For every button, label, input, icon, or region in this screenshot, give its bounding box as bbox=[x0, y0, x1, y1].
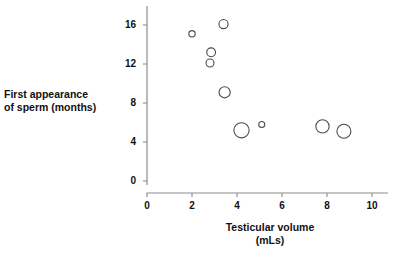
y-tick-label: 12 bbox=[114, 59, 136, 69]
y-tick-label: 0 bbox=[114, 176, 136, 186]
data-point bbox=[259, 121, 265, 127]
x-tick-label: 4 bbox=[226, 201, 248, 211]
data-point bbox=[207, 48, 216, 57]
scatter-plot-figure: First appearance of sperm (months) Testi… bbox=[0, 0, 396, 256]
x-tick-label: 10 bbox=[361, 201, 383, 211]
x-axis-spine bbox=[147, 193, 388, 197]
x-tick-label: 0 bbox=[136, 201, 158, 211]
plot-area bbox=[0, 0, 396, 256]
x-tick-label: 6 bbox=[271, 201, 293, 211]
y-tick-label: 16 bbox=[114, 20, 136, 30]
axis-group bbox=[147, 6, 388, 197]
data-point-group bbox=[189, 19, 351, 138]
x-tick-label: 2 bbox=[181, 201, 203, 211]
tick-mark-group bbox=[143, 25, 372, 197]
data-point bbox=[206, 59, 214, 67]
data-point bbox=[337, 124, 351, 138]
data-point bbox=[219, 87, 230, 98]
y-tick-label: 8 bbox=[114, 98, 136, 108]
y-tick-label: 4 bbox=[114, 137, 136, 147]
x-tick-label: 8 bbox=[316, 201, 338, 211]
data-point bbox=[189, 31, 195, 37]
data-point bbox=[316, 120, 329, 133]
data-point bbox=[234, 123, 249, 138]
data-point bbox=[219, 19, 228, 28]
